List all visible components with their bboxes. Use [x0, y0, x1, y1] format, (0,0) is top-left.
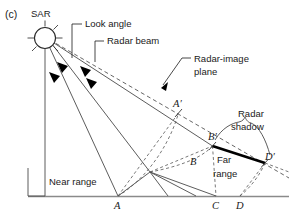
angle-arrowhead-icon [80, 66, 91, 77]
sar-antenna-icon [28, 21, 63, 52]
point-label-A-prime: A′ [172, 98, 182, 109]
radar-shadow-label-line1: Radar [238, 108, 264, 119]
panel-label: (c) [5, 8, 17, 20]
radar-image-plane-label-line2: plane [194, 66, 217, 77]
point-label-C: C [212, 200, 220, 211]
point-label-D: D [235, 200, 244, 211]
radar-image-plane-label-line1: Radar-image [194, 53, 249, 64]
chord-A-Aprime [118, 113, 179, 196]
point-label-A: A [113, 200, 121, 211]
chord-D-Dprime [240, 163, 265, 196]
far-range-label-line2: range [213, 168, 237, 179]
point-label-B-prime: B′ [208, 131, 217, 142]
radar-beam-label: Radar beam [107, 35, 159, 46]
radar-beam-leader [95, 41, 104, 62]
beam-ray-to-B [52, 44, 150, 172]
sar-label: SAR [31, 8, 51, 19]
far-range-label-line1: Far [217, 154, 231, 165]
near-range-label: Near range [49, 176, 97, 187]
figure-canvas: (c) SAR Look angle Radar beam Radar-imag… [0, 0, 291, 214]
radar-image-plane-leader [163, 58, 182, 85]
chord-B-Bprime [150, 146, 213, 172]
beam-far-edge-ray [54, 43, 213, 146]
point-label-B: B [190, 156, 197, 167]
tick-Aprime [175, 109, 182, 117]
terrain-slope-back [150, 172, 216, 196]
point-label-D-prime: D′ [264, 151, 276, 162]
look-angle-label: Look angle [85, 18, 131, 29]
look-angle-arrowheads [49, 62, 68, 83]
angle-arrowhead-icon [49, 72, 60, 83]
angle-arrowhead-icon [86, 78, 97, 89]
look-angle-leader [72, 24, 82, 58]
radar-geometry-figure: (c) SAR Look angle Radar beam Radar-imag… [0, 0, 291, 214]
radar-shadow-label-line2: shadow [231, 121, 264, 132]
